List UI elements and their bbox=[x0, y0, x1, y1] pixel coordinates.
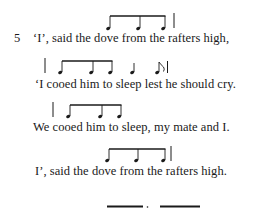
verse-line-2: ‘I cooed him to sleep lest he should cry… bbox=[35, 77, 236, 91]
notation-line-5-partial bbox=[107, 206, 200, 208]
notation-line-3 bbox=[53, 102, 122, 119]
stanza-number: 5 bbox=[14, 31, 20, 45]
verse-line-1: ‘I’, said the dove from the rafters high… bbox=[33, 31, 229, 45]
notation-line-2 bbox=[45, 58, 168, 75]
verse-line-3: We cooed him to sleep, my mate and I. bbox=[33, 120, 230, 134]
verse-line-4: I’, said the dove from the rafters high. bbox=[35, 164, 227, 178]
notation-line-1 bbox=[106, 13, 174, 31]
notation-line-4 bbox=[105, 146, 171, 163]
